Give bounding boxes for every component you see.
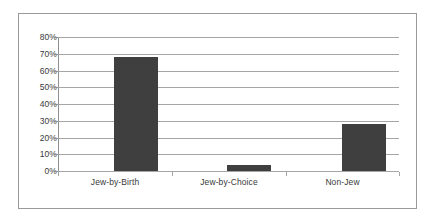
chart-plot-wrapper: 80% 70% 60% 50% 40% 30% 20% 10% 0% [19,14,416,208]
x-axis-tick-label: Non-Jew [286,177,399,188]
y-axis-tick-label: 30% [19,116,57,125]
y-axis-tick-label: 50% [19,83,57,92]
gridline [58,71,399,72]
bar-jew-by-choice [227,165,271,171]
y-axis-tick-label: 40% [19,100,57,109]
y-axis-tick-label: 60% [19,66,57,75]
x-axis-tick-mark [172,172,173,176]
x-axis-tick-label: Jew-by-Choice [172,177,286,188]
chart-frame: 80% 70% 60% 50% 40% 30% 20% 10% 0% [18,13,417,209]
y-axis-tick-label: 0% [19,167,57,176]
plot-area [58,37,399,171]
gridline [58,37,399,38]
x-axis-tick-mark [58,172,59,176]
bar-non-jew [342,124,386,171]
y-axis-tick-label: 80% [19,33,57,42]
y-axis-tick-label: 70% [19,49,57,58]
gridline [58,121,399,122]
y-axis-tick-label: 20% [19,133,57,142]
y-axis-tick-labels: 80% 70% 60% 50% 40% 30% 20% 10% 0% [19,14,57,208]
x-axis-tick-mark [286,172,287,176]
x-axis-tick-label: Jew-by-Birth [58,177,172,188]
bar-jew-by-birth [114,57,158,171]
gridline [58,171,399,172]
gridline [58,87,399,88]
x-axis-tick-mark [399,172,400,176]
y-axis-tick-label: 10% [19,150,57,159]
gridline [58,54,399,55]
gridline [58,104,399,105]
x-axis-tick-labels: Jew-by-Birth Jew-by-Choice Non-Jew [58,177,399,193]
